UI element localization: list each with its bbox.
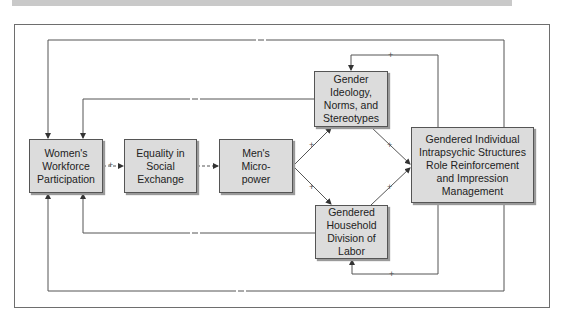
sign-plus-w-eq: + [108, 161, 113, 170]
sign-plus-hh-ind: + [387, 183, 392, 192]
sign-plus-gi-ind: + [387, 141, 392, 150]
node-womens-workforce: Women's Workforce Participation [29, 139, 103, 193]
sign-plus-men-gi: + [309, 141, 314, 150]
node-equality-social-exchange: Equality in Social Exchange [124, 139, 197, 193]
node-gender-ideology: Gender Ideology, Norms, and Stereotypes [314, 71, 388, 127]
sign-plus-bottom-loop: + [389, 270, 394, 279]
node-mens-micropower: Men's Micro- power [219, 139, 293, 193]
sign-plus-men-hh: + [309, 183, 314, 192]
node-intrapsychic-structures: Gendered Individual Intrapsychic Structu… [411, 127, 534, 203]
sign-plus-top-loop: + [388, 51, 393, 60]
node-household-labor: Gendered Household Division of Labor [315, 205, 388, 259]
